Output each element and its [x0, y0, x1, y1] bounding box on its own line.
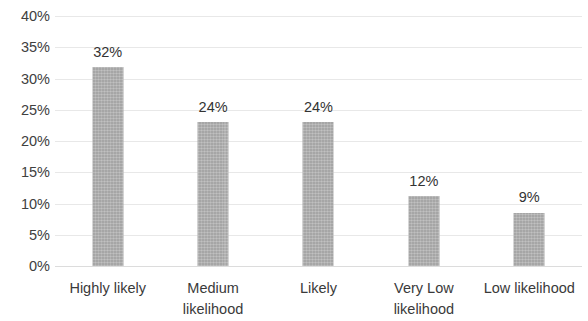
x-tick-label: Mediumlikelihood — [160, 278, 265, 320]
y-tick-label: 30% — [0, 71, 50, 86]
bar-group: 24% — [266, 16, 371, 266]
bar-value-label: 24% — [199, 100, 228, 115]
x-tick-label: Likely — [266, 278, 371, 299]
axis-baseline — [55, 266, 582, 267]
x-tick-label-line: Medium — [160, 278, 265, 299]
y-tick-label: 10% — [0, 196, 50, 211]
y-axis: 0%5%10%15%20%25%30%35%40% — [0, 0, 50, 321]
bar-group: 12% — [371, 16, 476, 266]
bar[interactable] — [303, 122, 334, 266]
x-tick-label: Highly likely — [55, 278, 160, 299]
bar-value-label: 9% — [519, 190, 540, 205]
y-tick-label: 20% — [0, 134, 50, 149]
bar[interactable] — [408, 196, 439, 266]
bar[interactable] — [198, 122, 229, 266]
x-axis: Highly likelyMediumlikelihoodLikelyVery … — [55, 278, 582, 321]
bar-group: 24% — [160, 16, 265, 266]
bar[interactable] — [92, 67, 123, 266]
x-tick-label: Very Lowlikelihood — [371, 278, 476, 320]
x-tick-label-line: likelihood — [160, 299, 265, 320]
bar-chart: 0%5%10%15%20%25%30%35%40% 32%24%24%12%9%… — [0, 0, 588, 321]
bar-group: 9% — [477, 16, 582, 266]
x-tick-label-line: Likely — [266, 278, 371, 299]
bar[interactable] — [514, 213, 545, 266]
y-tick-label: 0% — [0, 259, 50, 274]
bar-value-label: 12% — [409, 174, 438, 189]
x-tick-label: Low likelihood — [477, 278, 582, 299]
x-tick-label-line: Very Low — [371, 278, 476, 299]
y-tick-label: 5% — [0, 228, 50, 243]
x-tick-label-line: Low likelihood — [477, 278, 582, 299]
plot-area: 32%24%24%12%9% — [55, 16, 582, 266]
y-tick-label: 40% — [0, 9, 50, 24]
x-tick-label-line: Highly likely — [55, 278, 160, 299]
y-tick-label: 35% — [0, 40, 50, 55]
y-tick-label: 15% — [0, 165, 50, 180]
bar-group: 32% — [55, 16, 160, 266]
y-tick-label: 25% — [0, 103, 50, 118]
bar-value-label: 24% — [304, 100, 333, 115]
bar-value-label: 32% — [93, 45, 122, 60]
x-tick-label-line: likelihood — [371, 299, 476, 320]
